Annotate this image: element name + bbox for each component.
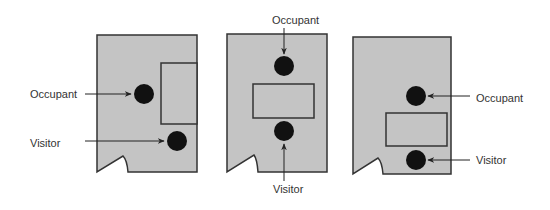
- room-layout-1: OccupantVisitor: [30, 35, 197, 172]
- visitor-dot: [167, 131, 187, 151]
- desk: [253, 84, 314, 118]
- office-layout-diagram: OccupantVisitorOccupantVisitorOccupantVi…: [0, 0, 550, 210]
- visitor-label: Visitor: [273, 183, 304, 195]
- occupant-label: Occupant: [476, 92, 523, 104]
- layouts: OccupantVisitorOccupantVisitorOccupantVi…: [30, 14, 523, 195]
- visitor-dot: [406, 150, 426, 170]
- room-floor: [353, 37, 451, 174]
- visitor-label: Visitor: [30, 137, 61, 149]
- occupant-dot: [134, 84, 154, 104]
- occupant-label: Occupant: [272, 14, 319, 26]
- desk: [386, 113, 447, 146]
- room-layout-3: OccupantVisitor: [353, 37, 523, 174]
- visitor-dot: [274, 121, 294, 141]
- occupant-label: Occupant: [30, 88, 77, 100]
- room-layout-2: OccupantVisitor: [227, 14, 327, 195]
- occupant-dot: [274, 56, 294, 76]
- desk: [161, 63, 197, 124]
- visitor-label: Visitor: [476, 154, 507, 166]
- occupant-dot: [406, 86, 426, 106]
